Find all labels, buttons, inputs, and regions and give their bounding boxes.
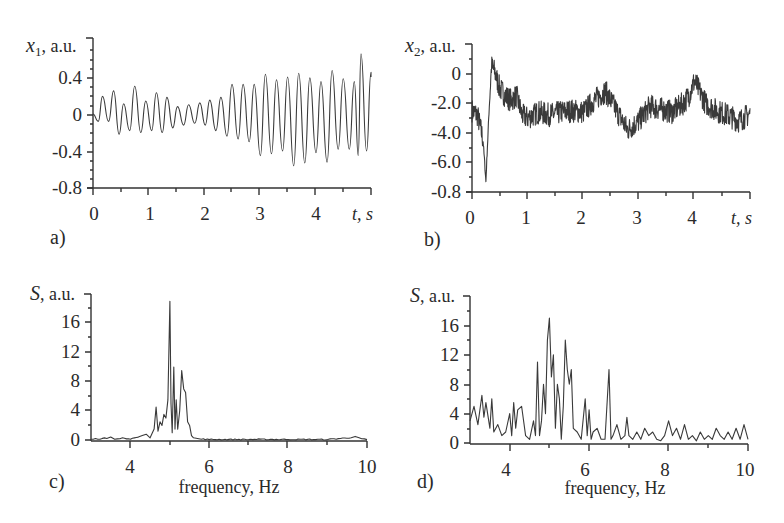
- panel-b-x-axis: [466, 192, 750, 199]
- panel-d-xtick-2: 8: [660, 459, 670, 480]
- panel-c-xtick-2: 8: [283, 456, 293, 477]
- panel-b-xtick-0: 0: [465, 207, 475, 228]
- panel-a-xtick-4: 4: [311, 203, 321, 224]
- panel-a-ytick-3: -0.8: [52, 177, 82, 198]
- panel-b-xtick-3: 3: [632, 207, 642, 228]
- panel-b-xtick-4: 4: [687, 207, 697, 228]
- panel-c-xtick-1: 6: [204, 456, 214, 477]
- panel-d-ytick-4: 0: [450, 432, 460, 453]
- panel-b: x2, a.u. 0 -2.0 -4.0 -6.0 -0.8 0 1 2 3 4…: [404, 34, 752, 251]
- panel-a-xtick-0: 0: [89, 203, 99, 224]
- panel-d-ylabel-var: S: [410, 284, 420, 306]
- panel-d-xlabel: frequency, Hz: [565, 478, 666, 498]
- panel-c-spectrum-trace: [91, 301, 367, 440]
- panel-d-ytick-0: 16: [440, 315, 459, 336]
- panel-d-ytick-2: 8: [450, 374, 460, 395]
- panel-c-ytick-0: 16: [61, 311, 80, 332]
- panel-d-xtick-3: 10: [736, 459, 755, 480]
- panel-c-tag: c): [49, 470, 65, 493]
- panel-c-ylabel-var: S: [30, 282, 40, 304]
- panel-c-ylabel: S, a.u.: [30, 282, 75, 304]
- panel-d-ylabel-unit: , a.u.: [420, 286, 455, 306]
- panel-d: S, a.u. 16 12 8 4 0 4 6 8 10 frequency, …: [410, 284, 755, 498]
- panel-d-y-axis: [463, 296, 470, 444]
- panel-b-ytick-4: -0.8: [431, 181, 461, 202]
- panel-a-xlabel-unit: , s: [357, 204, 373, 224]
- panel-b-xlabel: t, s: [731, 208, 752, 228]
- panel-c-y-axis: [84, 294, 91, 441]
- panel-a-ytick-2: -0.4: [52, 141, 83, 162]
- panel-b-xlabel-unit: , s: [736, 208, 752, 228]
- panel-b-xtick-2: 2: [576, 207, 586, 228]
- panel-a-xtick-3: 3: [255, 203, 265, 224]
- panel-a-ylabel-unit: , a.u.: [41, 36, 76, 56]
- panel-d-xtick-0: 4: [501, 459, 511, 480]
- panel-d-tag: d): [417, 470, 434, 493]
- panel-b-ylabel: x2, a.u.: [404, 34, 455, 59]
- panel-b-tag: b): [424, 228, 441, 251]
- panel-a-xtick-1: 1: [145, 203, 155, 224]
- panel-a-x-axis: [87, 188, 371, 195]
- panel-c-xtick-0: 4: [125, 456, 135, 477]
- panel-a-xlabel: t, s: [352, 204, 373, 224]
- panel-a-y-axis: [86, 38, 93, 188]
- panel-c-xlabel: frequency, Hz: [179, 477, 280, 497]
- panel-c-ytick-4: 0: [71, 429, 81, 450]
- panel-c-ytick-3: 4: [71, 399, 81, 420]
- figure: x1, a.u. 0.4 0 -0.4 -0.8 0 1 2 3 4 t, s …: [0, 0, 784, 523]
- panel-b-ytick-1: -2.0: [431, 92, 461, 113]
- panel-d-xtick-1: 6: [580, 459, 590, 480]
- panel-c: S, a.u. 16 12 8 4 0 4 6 8 10 frequency, …: [30, 282, 377, 497]
- panel-c-ylabel-unit: , a.u.: [40, 284, 75, 304]
- panel-b-ylabel-unit: , a.u.: [420, 36, 455, 56]
- panel-d-x-axis: [470, 444, 748, 451]
- panel-a-ylabel: x1, a.u.: [25, 34, 76, 59]
- panel-a-ytick-1: 0: [73, 104, 83, 125]
- panel-a-ytick-0: 0.4: [58, 67, 82, 88]
- panel-a-ylabel-var: x: [25, 34, 35, 56]
- panel-b-ytick-0: 0: [452, 63, 462, 84]
- panel-d-spectrum-trace: [470, 318, 748, 441]
- panel-a-tag: a): [50, 226, 66, 249]
- panel-d-ylabel: S, a.u.: [410, 284, 455, 306]
- panel-d-ytick-1: 12: [440, 344, 459, 365]
- panel-a-xtick-2: 2: [200, 203, 210, 224]
- panel-b-signal-trace: [472, 57, 750, 182]
- panel-c-ytick-1: 12: [61, 341, 80, 362]
- panel-b-ylabel-var: x: [404, 34, 414, 56]
- panel-a: x1, a.u. 0.4 0 -0.4 -0.8 0 1 2 3 4 t, s …: [25, 34, 373, 249]
- panel-c-ytick-2: 8: [71, 370, 81, 391]
- panel-c-x-axis: [91, 441, 367, 448]
- panel-d-ytick-3: 4: [450, 403, 460, 424]
- panel-b-ytick-2: -4.0: [431, 122, 461, 143]
- panel-c-xtick-3: 10: [358, 456, 377, 477]
- panel-a-signal-trace: [93, 54, 371, 166]
- panel-b-y-axis: [465, 44, 472, 192]
- panel-b-xtick-1: 1: [521, 207, 531, 228]
- panel-b-ytick-3: -6.0: [431, 151, 461, 172]
